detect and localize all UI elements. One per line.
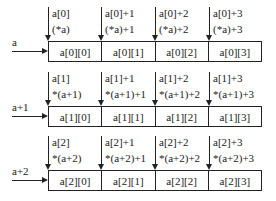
array-cell: a[2][2] bbox=[156, 171, 209, 190]
pointer-line bbox=[209, 136, 210, 164]
array-row-box: a[1][0]a[1][1]a[1][2]a[1][3] bbox=[48, 106, 262, 127]
pointer-line bbox=[48, 136, 49, 164]
pointer-expression: a[0] bbox=[52, 7, 70, 20]
array-cell: a[0][3] bbox=[209, 42, 261, 61]
element-pointer-label: a[2]+1*(a+2)+1 bbox=[101, 136, 154, 170]
element-pointer-label: a[1]+1*(a+1)+1 bbox=[101, 72, 154, 106]
element-pointer-label: a[0]+1(*a)+1 bbox=[101, 7, 154, 41]
row-pointer-line bbox=[12, 180, 43, 181]
element-pointer-label: a[1]+3*(a+1)+3 bbox=[209, 72, 262, 106]
row-pointer-label: a+1 bbox=[12, 101, 29, 113]
deref-expression: (*a)+3 bbox=[213, 23, 242, 36]
array-row-1: a[1]*(a+1)a[1]+1*(a+1)+1a[1]+2*(a+1)+2a[… bbox=[0, 65, 276, 131]
pointer-expression: a[2]+1 bbox=[105, 136, 134, 149]
array-cell: a[2][0] bbox=[49, 171, 102, 190]
pointer-line bbox=[155, 136, 156, 164]
pointer-line bbox=[209, 7, 210, 35]
array-cell: a[2][1] bbox=[102, 171, 155, 190]
array-cell: a[1][2] bbox=[156, 107, 209, 126]
pointer-line bbox=[155, 72, 156, 100]
deref-expression: *(a+2)+2 bbox=[159, 152, 200, 165]
array-cell: a[0][1] bbox=[102, 42, 155, 61]
deref-expression: (*a) bbox=[52, 23, 70, 36]
element-pointer-label: a[0](*a) bbox=[48, 7, 101, 41]
element-pointer-label: a[1]+2*(a+1)+2 bbox=[155, 72, 208, 106]
element-pointer-label: a[2]+2*(a+2)+2 bbox=[155, 136, 208, 170]
element-pointer-label: a[2]*(a+2) bbox=[48, 136, 101, 170]
pointer-expression: a[2] bbox=[52, 136, 70, 149]
deref-expression: *(a+2)+3 bbox=[213, 152, 254, 165]
row-pointer-label: a+2 bbox=[12, 165, 29, 177]
row-pointer-label: a bbox=[12, 36, 17, 48]
pointer-expression: a[1]+1 bbox=[105, 72, 134, 85]
deref-expression: *(a+1)+3 bbox=[213, 88, 254, 101]
element-pointer-label: a[1]*(a+1) bbox=[48, 72, 101, 106]
array-cell: a[0][0] bbox=[49, 42, 102, 61]
pointer-line bbox=[48, 7, 49, 35]
array-row-0: a[0](*a)a[0]+1(*a)+1a[0]+2(*a)+2a[0]+3(*… bbox=[0, 0, 276, 66]
element-pointer-label: a[0]+2(*a)+2 bbox=[155, 7, 208, 41]
array-cell: a[1][0] bbox=[49, 107, 102, 126]
pointer-line bbox=[101, 7, 102, 35]
array-cell: a[0][2] bbox=[156, 42, 209, 61]
pointer-line bbox=[101, 136, 102, 164]
pointer-line bbox=[155, 7, 156, 35]
deref-expression: *(a+1) bbox=[52, 88, 81, 101]
array-row-box: a[0][0]a[0][1]a[0][2]a[0][3] bbox=[48, 41, 262, 62]
array-cell: a[1][3] bbox=[209, 107, 261, 126]
row-pointer-line bbox=[12, 51, 43, 52]
pointer-expression: a[1] bbox=[52, 72, 70, 85]
pointer-expression: a[0]+3 bbox=[213, 7, 242, 20]
array-row-box: a[2][0]a[2][1]a[2][2]a[2][3] bbox=[48, 170, 262, 191]
deref-expression: (*a)+2 bbox=[159, 23, 188, 36]
pointer-expression: a[0]+1 bbox=[105, 7, 134, 20]
pointer-line bbox=[101, 72, 102, 100]
deref-expression: (*a)+1 bbox=[105, 23, 134, 36]
deref-expression: *(a+1)+2 bbox=[159, 88, 200, 101]
deref-expression: *(a+1)+1 bbox=[105, 88, 146, 101]
pointer-expression: a[2]+2 bbox=[159, 136, 188, 149]
pointer-expression: a[1]+3 bbox=[213, 72, 242, 85]
array-cell: a[2][3] bbox=[209, 171, 261, 190]
pointer-line bbox=[48, 72, 49, 100]
pointer-expression: a[0]+2 bbox=[159, 7, 188, 20]
element-pointer-label: a[2]+3*(a+2)+3 bbox=[209, 136, 262, 170]
pointer-expression: a[1]+2 bbox=[159, 72, 188, 85]
element-pointer-label: a[0]+3(*a)+3 bbox=[209, 7, 262, 41]
deref-expression: *(a+2) bbox=[52, 152, 81, 165]
pointer-expression: a[2]+3 bbox=[213, 136, 242, 149]
array-row-2: a[2]*(a+2)a[2]+1*(a+2)+1a[2]+2*(a+2)+2a[… bbox=[0, 129, 276, 195]
pointer-line bbox=[209, 72, 210, 100]
row-pointer-line bbox=[12, 116, 43, 117]
array-cell: a[1][1] bbox=[102, 107, 155, 126]
deref-expression: *(a+2)+1 bbox=[105, 152, 146, 165]
